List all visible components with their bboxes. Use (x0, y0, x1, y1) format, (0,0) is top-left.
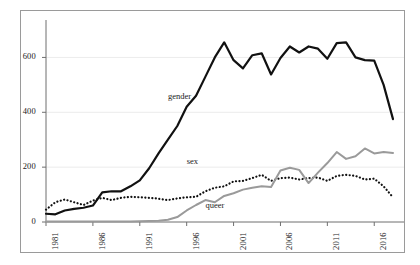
x-tick-label: 1991 (144, 232, 154, 250)
x-tick-label: 2006 (284, 232, 294, 250)
series-label-gender: gender (168, 91, 191, 101)
x-tick-label: 2011 (331, 233, 341, 251)
series-label-sex: sex (187, 156, 198, 166)
x-tick-label: 2001 (238, 232, 248, 250)
series-label-queer: queer (205, 200, 224, 210)
y-tick-label: 600 (10, 51, 36, 61)
gridlines (46, 57, 404, 167)
y-tick-label: 200 (10, 161, 36, 171)
y-tick-label: 0 (10, 216, 36, 226)
series-queer (46, 148, 393, 221)
line-chart (0, 0, 420, 265)
x-tick-label: 1986 (97, 232, 107, 250)
series-lines (46, 42, 393, 221)
y-tick-label: 400 (10, 106, 36, 116)
x-tick-label: 1981 (50, 232, 60, 250)
series-gender (46, 42, 393, 214)
x-tick-label: 2016 (378, 232, 388, 250)
x-tick-label: 1996 (191, 232, 201, 250)
